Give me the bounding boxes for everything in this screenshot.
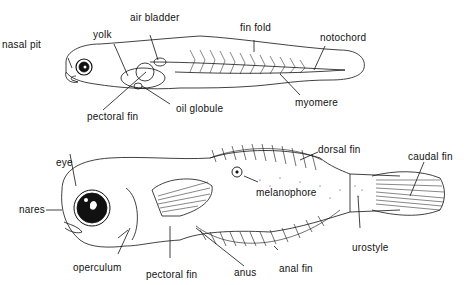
label-air-bladder: air bladder [130, 13, 179, 23]
label-operculum: operculum [73, 263, 122, 273]
label-melanophore: melanophore [256, 188, 317, 198]
diagram-drawing [0, 0, 468, 285]
label-nasal-pit: nasal pit [2, 40, 41, 50]
label-myomere: myomere [295, 98, 338, 108]
label-anus: anus [234, 268, 257, 278]
label-fin-fold: fin fold [240, 23, 271, 33]
label-nares: nares [19, 205, 45, 215]
label-pectoral-fin-top: pectoral fin [87, 112, 138, 122]
label-pectoral-fin-bottom: pectoral fin [146, 270, 197, 280]
fish-larva-diagram: nasal pit yolk air bladder fin fold noto… [0, 0, 468, 285]
label-oil-globule: oil globule [176, 104, 223, 114]
label-anal-fin: anal fin [279, 264, 313, 274]
label-notochord: notochord [320, 33, 366, 43]
label-eye: eye [56, 158, 73, 168]
label-yolk: yolk [93, 30, 112, 40]
label-dorsal-fin: dorsal fin [318, 145, 361, 155]
label-caudal-fin: caudal fin [408, 152, 453, 162]
label-urostyle: urostyle [352, 243, 389, 253]
